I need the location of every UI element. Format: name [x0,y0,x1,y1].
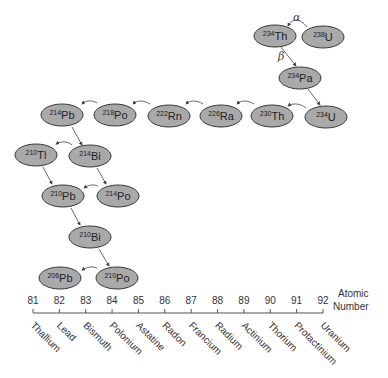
atomic-number-label: 86 [159,295,171,306]
nuclide-u238: 238U [302,26,344,48]
arrow-u234-th230 [288,104,306,108]
mass-number: 234 [263,30,275,37]
element-symbol: Rn [168,110,182,122]
nuclide-group: 234Th238U234Pa234U230Th226Ra222Rn218Po21… [15,25,347,289]
element-symbol: Tl [37,149,46,161]
element-symbol: Pa [299,72,313,84]
element-symbol: Th [274,30,287,42]
atomic-number-label: 90 [265,295,277,306]
element-symbol: Bi [91,150,101,162]
mass-number: 226 [208,110,220,117]
atomic-number-label: 88 [212,295,224,306]
alpha-label: α [293,11,301,24]
axis-title-line2: Number [333,301,369,312]
element-symbol: Po [117,190,130,202]
arrow-tl210-pb210 [43,167,52,184]
mass-number: 230 [260,110,272,117]
atomic-number-axis: 81Thallium82Lead83Bismuth84Polonium85Ast… [27,288,369,367]
nuclide-th234: 234Th [254,25,296,47]
nuclide-pa234: 234Pa [279,67,321,89]
element-symbol: Ra [220,110,235,122]
nuclide-po214: 214Po [97,185,139,207]
nuclide-th230: 230Th [251,105,293,127]
axis-title-line1: Atomic [338,288,369,299]
nuclide-ra226: 226Ra [200,105,242,127]
element-symbol: Th [271,110,284,122]
arrow-pb214-bi214 [72,127,82,145]
atomic-number-label: 83 [80,295,92,306]
arrow-po214-pb210 [84,185,98,188]
arrow-bi210-po210 [99,249,109,266]
arrow-pa234-u234 [308,89,320,105]
element-symbol: U [328,111,336,123]
element-symbol: Bi [91,231,101,243]
nuclide-bi210: 210Bi [69,226,111,248]
element-symbol: Pb [62,190,75,202]
arrow-bi214-tl210 [56,142,72,145]
mass-number: 234 [316,111,328,118]
nuclide-rn222: 222Rn [148,105,190,127]
nuclide-tl210: 210Tl [15,144,57,166]
arrow-rn222-po218 [133,101,150,104]
mass-number: 214 [79,150,91,157]
nuclide-pb214: 214Pb [41,104,83,126]
element-symbol: U [325,31,333,43]
arrow-po210-pb206 [82,267,97,270]
element-name-label: Lead [55,320,79,344]
mass-number: 210 [79,231,91,238]
mass-number: 238 [313,31,325,38]
mass-number: 214 [105,190,117,197]
atomic-number-label: 91 [291,295,303,306]
arrow-ra226-rn222 [186,101,203,104]
atomic-number-label: 81 [27,295,39,306]
mass-number: 210 [50,190,62,197]
mass-number: 214 [49,109,61,116]
decay-series-diagram: α β 234Th238U234Pa234U230Th226Ra222Rn [0,0,388,378]
arrow-po218-pb214 [82,101,97,104]
nuclide-bi214: 214Bi [69,145,111,167]
mass-number: 234 [287,72,299,79]
atomic-number-label: 89 [238,295,250,306]
atomic-number-label: 85 [133,295,145,306]
element-symbol: Pb [59,272,72,284]
mass-number: 222 [156,110,168,117]
mass-number: 210 [26,149,38,156]
nuclide-po210: 210Po [96,267,138,289]
nuclide-u234: 234U [305,106,347,128]
element-symbol: Po [114,109,127,121]
atomic-number-label: 92 [317,295,329,306]
arrow-th230-ra226 [237,101,254,104]
arrow-pb210-bi210 [71,208,80,225]
arrow-bi214-po214 [97,168,106,184]
nuclide-pb210: 210Pb [42,185,84,207]
mass-number: 206 [47,272,59,279]
element-symbol: Pb [61,109,74,121]
atomic-number-label: 82 [54,295,66,306]
mass-number: 210 [104,272,116,279]
beta-label: β [277,50,284,63]
atomic-number-label: 87 [186,295,198,306]
nuclide-pb206: 206Pb [39,267,81,289]
atomic-number-label: 84 [107,295,119,306]
nuclide-po218: 218Po [94,104,136,126]
mass-number: 218 [102,109,114,116]
element-symbol: Po [116,272,129,284]
